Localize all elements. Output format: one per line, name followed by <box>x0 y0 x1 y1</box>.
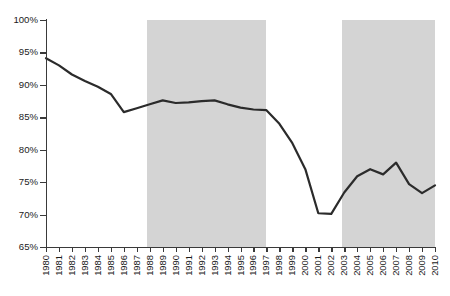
x-tick <box>370 247 371 252</box>
x-tick-label: 2007 <box>391 255 400 276</box>
x-tick <box>396 247 397 252</box>
series-line <box>46 58 435 214</box>
x-tick <box>305 247 306 252</box>
x-tick <box>163 247 164 252</box>
x-tick <box>383 247 384 252</box>
x-tick-label: 2001 <box>313 255 322 276</box>
x-tick-label: 1987 <box>132 255 141 276</box>
x-tick <box>266 247 267 252</box>
x-tick-label: 1990 <box>171 255 180 276</box>
y-tick-label: 85% <box>19 112 38 122</box>
x-tick-label: 2004 <box>352 255 361 276</box>
y-tick-label: 90% <box>19 80 38 90</box>
y-tick-label: 75% <box>19 177 38 187</box>
x-tick-label: 1980 <box>41 255 50 276</box>
x-tick-label: 1989 <box>158 255 167 276</box>
x-tick-label: 2009 <box>417 255 426 276</box>
x-tick <box>435 247 436 252</box>
x-tick-label: 1996 <box>248 255 257 276</box>
x-tick <box>253 247 254 252</box>
x-tick-label: 2000 <box>300 255 309 276</box>
x-tick <box>279 247 280 252</box>
x-tick <box>176 247 177 252</box>
chart-container: 65%70%75%80%85%90%95%100% 19801981198219… <box>0 0 450 296</box>
x-tick-label: 2006 <box>378 255 387 276</box>
x-tick <box>98 247 99 252</box>
x-tick <box>46 247 47 252</box>
x-tick-label: 2002 <box>326 255 335 276</box>
x-tick-label: 1997 <box>261 255 270 276</box>
series-layer <box>46 20 435 247</box>
y-tick-label: 95% <box>19 47 38 57</box>
x-tick <box>215 247 216 252</box>
plot-area <box>46 20 435 247</box>
x-tick <box>292 247 293 252</box>
x-tick-label: 1988 <box>145 255 154 276</box>
y-tick-label: 100% <box>13 15 38 25</box>
x-tick <box>189 247 190 252</box>
x-tick-label: 2010 <box>430 255 439 276</box>
x-tick-label: 1985 <box>106 255 115 276</box>
x-tick <box>331 247 332 252</box>
x-tick <box>202 247 203 252</box>
x-tick <box>318 247 319 252</box>
x-tick-label: 1991 <box>184 255 193 276</box>
x-tick <box>150 247 151 252</box>
y-tick-label: 80% <box>19 145 38 155</box>
x-tick-label: 1982 <box>67 255 76 276</box>
x-tick-label: 1993 <box>210 255 219 276</box>
x-tick <box>111 247 112 252</box>
x-tick <box>59 247 60 252</box>
x-tick-label: 2003 <box>339 255 348 276</box>
x-tick <box>124 247 125 252</box>
x-tick <box>422 247 423 252</box>
x-tick <box>85 247 86 252</box>
x-tick-label: 1983 <box>80 255 89 276</box>
x-tick <box>228 247 229 252</box>
x-tick-label: 1998 <box>274 255 283 276</box>
y-axis-line <box>46 19 47 248</box>
x-tick-label: 1994 <box>223 255 232 276</box>
x-tick-label: 1995 <box>236 255 245 276</box>
x-tick-label: 2005 <box>365 255 374 276</box>
x-tick <box>241 247 242 252</box>
x-tick <box>72 247 73 252</box>
x-tick <box>357 247 358 252</box>
y-tick-label: 65% <box>19 242 38 252</box>
x-tick-label: 1984 <box>93 255 102 276</box>
x-tick-label: 1981 <box>54 255 63 276</box>
x-tick-label: 1986 <box>119 255 128 276</box>
x-tick-label: 1992 <box>197 255 206 276</box>
x-tick <box>409 247 410 252</box>
x-tick-label: 2008 <box>404 255 413 276</box>
x-tick <box>137 247 138 252</box>
x-tick-label: 1999 <box>287 255 296 276</box>
y-tick-label: 70% <box>19 210 38 220</box>
x-tick <box>344 247 345 252</box>
